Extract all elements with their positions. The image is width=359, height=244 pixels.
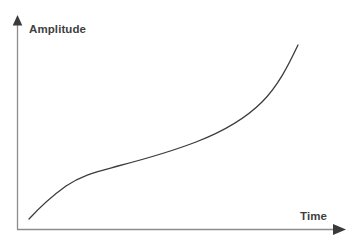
plot-canvas bbox=[0, 0, 359, 244]
arrow-right-icon bbox=[333, 224, 346, 235]
y-axis-label: Amplitude bbox=[29, 24, 86, 36]
data-curve bbox=[29, 45, 298, 219]
x-axis-label: Time bbox=[300, 211, 327, 223]
chart-figure: Amplitude Time bbox=[0, 0, 359, 244]
arrow-up-icon bbox=[13, 15, 23, 26]
